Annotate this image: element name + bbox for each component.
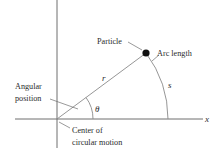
arc-symbol: s (168, 80, 172, 90)
center-label-1: Center of (72, 126, 103, 135)
arc-length-label: Arc length (157, 49, 192, 58)
circular-motion-diagram: Particle Arc length Angular position Cen… (0, 0, 224, 163)
particle-label: Particle (97, 37, 122, 46)
center-label-2: circular motion (72, 138, 122, 147)
particle-dot (142, 49, 149, 56)
theta-arc (86, 98, 93, 120)
particle-leader (128, 42, 142, 50)
theta-symbol: θ (95, 104, 100, 114)
arc-length-curve (146, 53, 168, 119)
x-axis-label: x (204, 114, 209, 124)
radius-symbol: r (102, 73, 106, 83)
angular-position-leader (50, 99, 78, 109)
radius-line (57, 53, 146, 119)
angular-position-label-2: position (15, 94, 41, 103)
center-leader (59, 122, 70, 128)
angular-position-label-1: Angular (15, 82, 42, 91)
